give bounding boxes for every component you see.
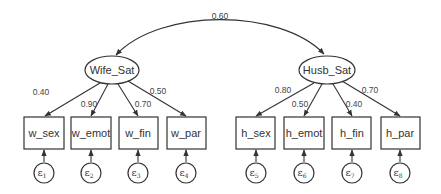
- observed-label: w_par: [170, 127, 201, 139]
- observed-label: w_fin: [124, 127, 151, 139]
- loading-label: 0.70: [135, 99, 152, 109]
- observed-h-par: h_par: [381, 117, 420, 149]
- latent-husb-sat: Husb_Sat: [299, 56, 355, 84]
- loading-label: 0.40: [33, 87, 50, 97]
- loading-label: 0.40: [346, 99, 363, 109]
- observed-label: h_fin: [340, 127, 364, 139]
- error-e2: ε2: [81, 150, 101, 183]
- error-e8: ε8: [390, 150, 410, 183]
- error-e7: ε7: [342, 150, 362, 183]
- loadings-husb: 0.80 0.50 0.40 0.70: [256, 81, 400, 116]
- observed-w-fin: w_fin: [119, 117, 158, 149]
- latent-label: Wife_Sat: [90, 64, 135, 76]
- error-e6: ε6: [294, 150, 314, 183]
- loading-label: 0.80: [275, 85, 292, 95]
- error-e5: ε5: [246, 150, 266, 183]
- loading-label: 0.70: [362, 85, 379, 95]
- observed-h-sex: h_sex: [236, 117, 275, 149]
- observed-label: h_par: [386, 127, 414, 139]
- sem-diagram: 0.60 Wife_Sat Husb_Sat 0.40 0.90 0.70 0.…: [0, 0, 441, 194]
- observed-label: w_emot: [71, 127, 111, 139]
- observed-w-par: w_par: [167, 117, 206, 149]
- loadings-wife: 0.40 0.90 0.70 0.50: [33, 81, 186, 116]
- observed-h-fin: h_fin: [332, 117, 371, 149]
- loading-label: 0.50: [150, 86, 167, 96]
- observed-label: h_emot: [286, 127, 323, 139]
- observed-h-emot: h_emot: [284, 117, 324, 149]
- observed-w-sex: w_sex: [24, 117, 64, 149]
- error-e4: ε4: [176, 150, 196, 183]
- latent-wife-sat: Wife_Sat: [85, 56, 139, 84]
- loading-label: 0.50: [292, 99, 309, 109]
- covariance-arc: 0.60: [116, 11, 324, 55]
- observed-w-emot: w_emot: [71, 117, 111, 149]
- covariance-label: 0.60: [212, 11, 229, 21]
- observed-label: w_sex: [27, 127, 60, 139]
- latent-label: Husb_Sat: [303, 64, 351, 76]
- observed-label: h_sex: [241, 127, 271, 139]
- error-e1: ε1: [34, 150, 54, 183]
- error-e3: ε3: [128, 150, 148, 183]
- loading-label: 0.90: [81, 99, 98, 109]
- error-terms: ε1 ε2 ε3 ε4 ε5 ε6 ε7: [34, 150, 410, 183]
